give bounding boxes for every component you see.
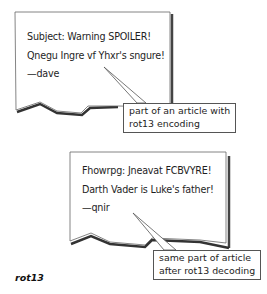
encoded-callout: part of an article with rot13 encoding: [123, 103, 236, 133]
decoded-subject-line: Fhowrpg: Jneavat FCBVYRE!: [82, 165, 211, 177]
decoded-body-line: Darth Vader is Luke's father!: [82, 184, 214, 196]
decoded-callout-line-2: after rot13 decoding: [159, 265, 255, 278]
figure-caption: rot13: [15, 272, 44, 283]
encoded-callout-line-1: part of an article with: [129, 105, 230, 118]
encoded-signature: —dave: [27, 68, 59, 80]
encoded-callout-line-2: rot13 encoding: [129, 118, 230, 131]
decoded-callout-line-1: same part of article: [159, 252, 255, 265]
encoded-article-card: [15, 12, 172, 115]
encoded-body-line: Qnegu Ingre vf Yhxr's sngure!: [27, 50, 165, 62]
encoded-subject-line: Subject: Warning SPOILER!: [27, 31, 151, 43]
decoded-callout: same part of article after rot13 decodin…: [153, 250, 261, 280]
decoded-signature: —qnir: [82, 202, 109, 214]
